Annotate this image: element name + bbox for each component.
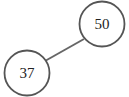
node-label-37: 37 bbox=[20, 65, 36, 81]
node-label-50: 50 bbox=[95, 16, 110, 32]
tree-diagram: 50 37 bbox=[0, 0, 129, 97]
edge-50-37 bbox=[45, 39, 84, 61]
node-50: 50 bbox=[80, 2, 125, 47]
node-37: 37 bbox=[5, 51, 50, 96]
